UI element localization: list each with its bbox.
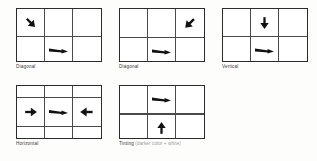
- arrow-down-icon: [251, 9, 278, 36]
- grid-cell-r1c0: [223, 37, 251, 62]
- grid-cell-r1c2: [73, 37, 101, 62]
- grid-cell-r0c0: [223, 9, 251, 37]
- arrangement-grid: [222, 8, 308, 62]
- grid-cell-r0c2: [279, 9, 307, 37]
- grid-cell-r1c2: [279, 37, 307, 62]
- caption-label: Vertical: [222, 64, 239, 69]
- caption-label: Horizontal: [16, 141, 38, 146]
- arrow-right-tapered-icon: [251, 37, 278, 62]
- grid-cell-r0c2: [73, 86, 101, 98]
- panel-diagonal-2: Diagonal: [119, 8, 205, 62]
- grid-cell-r0c1: [148, 9, 176, 38]
- grid-cell-r2c2: [176, 115, 204, 139]
- arrow-right-tapered-icon: [148, 86, 175, 113]
- grid-cell-r0c0: [120, 86, 148, 114]
- arrow-up-icon: [148, 115, 175, 139]
- arrow-left-icon: [73, 98, 101, 126]
- panel-caption: Diagonal: [16, 65, 36, 70]
- grid-cell-r0c0: [17, 9, 45, 37]
- grid-cell-r2c0: [120, 115, 148, 139]
- grid-cell-r1c1: [251, 37, 279, 62]
- grid-cell-r1c0: [120, 38, 148, 62]
- right-edge-clip: [311, 0, 317, 161]
- panel-caption: Diagonal: [119, 65, 139, 70]
- arrangement-grid: [16, 8, 102, 62]
- grid-cell-r0c1: [251, 9, 279, 37]
- caption-label: Diagonal: [119, 64, 139, 69]
- grid-cell-r2c1: [148, 115, 176, 139]
- panel-horizontal: Horizontal: [16, 85, 102, 139]
- grid-cell-r2c0: [17, 127, 45, 139]
- panel-caption: Tinting (darker color + white): [119, 142, 181, 147]
- arrow-down-left-icon: [176, 9, 204, 37]
- arrow-right-tapered-icon: [45, 98, 72, 126]
- panel-diagonal-1: Diagonal: [16, 8, 102, 62]
- grid-cell-r1c1: [45, 98, 73, 127]
- arrow-right-tapered-icon: [148, 38, 175, 62]
- grid-cell-r0c2: [176, 9, 204, 38]
- caption-subtitle: (darker color + white): [135, 141, 180, 146]
- caption-label: Diagonal: [16, 64, 36, 69]
- arrangement-grid: [119, 85, 205, 139]
- grid-cell-r1c1: [148, 38, 176, 62]
- panel-vertical: Vertical: [222, 8, 308, 62]
- arrow-down-right-icon: [17, 9, 44, 36]
- arrangement-grid: [16, 85, 102, 139]
- arrangement-grid: [119, 8, 205, 62]
- grid-cell-r0c2: [73, 9, 101, 37]
- grid-cell-r0c1: [45, 9, 73, 37]
- grid-cell-r0c0: [17, 86, 45, 98]
- figure-root: DiagonalDiagonalVerticalHorizontalTintin…: [0, 0, 317, 161]
- grid-cell-r0c0: [120, 9, 148, 38]
- grid-cell-r1c1: [45, 37, 73, 62]
- panel-caption: Horizontal: [16, 142, 38, 147]
- grid-cell-r1c2: [73, 98, 101, 127]
- grid-cell-r2c1: [45, 127, 73, 139]
- grid-cell-r0c1: [148, 86, 176, 114]
- grid-cell-r1c0: [17, 98, 45, 127]
- grid-cell-r0c2: [176, 86, 204, 114]
- panel-tinting: Tinting (darker color + white): [119, 85, 205, 139]
- panel-caption: Vertical: [222, 65, 239, 70]
- arrow-right-icon: [17, 98, 44, 126]
- grid-cell-r1c0: [17, 37, 45, 62]
- arrow-right-tapered-icon: [45, 37, 72, 62]
- grid-cell-r1c2: [176, 38, 204, 62]
- grid-cell-r0c1: [45, 86, 73, 98]
- caption-label: Tinting: [119, 141, 134, 146]
- grid-cell-r2c2: [73, 127, 101, 139]
